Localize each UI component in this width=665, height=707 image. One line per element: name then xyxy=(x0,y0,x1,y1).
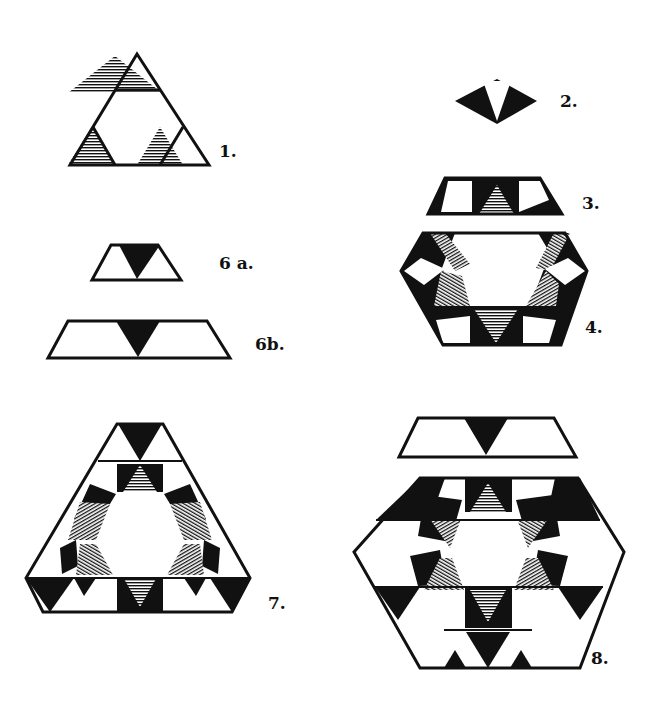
label-figure-7: 7. xyxy=(268,593,286,613)
figure-6b xyxy=(48,321,230,358)
figure-3 xyxy=(428,178,562,214)
label-figure-1: 1. xyxy=(219,141,237,161)
figure-1 xyxy=(68,54,209,165)
figure-4 xyxy=(401,233,587,345)
label-figure-6b: 6b. xyxy=(255,334,285,354)
label-figure-4: 4. xyxy=(585,317,603,337)
label-figure-3: 3. xyxy=(582,193,600,213)
figure-6a xyxy=(92,245,181,280)
label-figure-2: 2. xyxy=(560,91,578,111)
label-figure-6a: 6 a. xyxy=(219,253,254,273)
label-figure-8: 8. xyxy=(591,648,609,668)
figure-2 xyxy=(455,79,537,124)
figure-8-hexagon xyxy=(354,478,624,668)
figure-7 xyxy=(26,424,250,612)
figure-8-top xyxy=(399,418,576,457)
